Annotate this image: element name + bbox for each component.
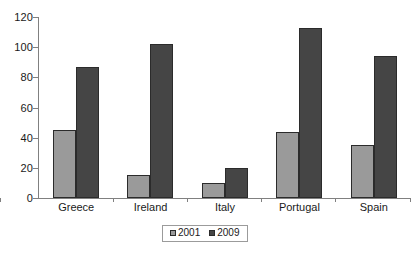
y-axis-tick-label: 80 [21, 72, 33, 83]
y-axis-tick-label: 40 [21, 132, 33, 143]
chart-legend: 2001 2009 [162, 225, 248, 242]
y-axis-tick-labels: 120 100 80 60 40 20 0 [0, 0, 36, 215]
bar-chart-figure: 120 100 80 60 40 20 0 [0, 0, 415, 256]
bar-group-spain [337, 17, 411, 198]
legend-swatch-icon [209, 230, 215, 236]
y-axis-tick [33, 108, 38, 109]
bar-group-portugal [262, 17, 336, 198]
x-axis-label-ireland: Ireland [113, 200, 187, 214]
x-axis-line [38, 198, 411, 199]
y-axis-tick [33, 138, 38, 139]
x-axis-label-greece: Greece [39, 200, 113, 214]
bar-spain-2009 [374, 56, 397, 198]
bar-greece-2001 [53, 130, 76, 198]
bar-ireland-2001 [127, 175, 150, 198]
y-axis-tick-label: 100 [14, 42, 33, 53]
bars-container [39, 17, 411, 198]
y-axis-tick-label: 60 [21, 102, 33, 113]
bar-ireland-2009 [150, 44, 173, 198]
legend-label-2001: 2001 [178, 228, 200, 238]
y-axis-tick-label: 120 [14, 12, 33, 23]
y-axis-tick [33, 47, 38, 48]
x-axis-category-labels: Greece Ireland Italy Portugal Spain [39, 200, 411, 216]
legend-swatch-icon [170, 230, 176, 236]
x-axis-label-italy: Italy [188, 200, 262, 214]
bar-greece-2009 [76, 67, 99, 198]
legend-item-2009: 2009 [209, 228, 239, 238]
x-axis-label-spain: Spain [337, 200, 411, 214]
bar-spain-2001 [351, 145, 374, 198]
bar-portugal-2001 [276, 132, 299, 198]
x-axis-label-portugal: Portugal [262, 200, 336, 214]
bar-group-ireland [113, 17, 187, 198]
bar-italy-2001 [202, 183, 225, 198]
y-axis-tick [33, 77, 38, 78]
bar-portugal-2009 [299, 28, 322, 198]
legend-item-2001: 2001 [170, 228, 200, 238]
bar-group-italy [188, 17, 262, 198]
x-axis-tick [0, 198, 1, 202]
y-axis-tick [33, 17, 38, 18]
bar-italy-2009 [225, 168, 248, 198]
bar-group-greece [39, 17, 113, 198]
y-axis-tick-label: 20 [21, 162, 33, 173]
plot-area: 120 100 80 60 40 20 0 [0, 0, 415, 215]
legend-label-2009: 2009 [217, 228, 239, 238]
y-axis-tick [33, 168, 38, 169]
